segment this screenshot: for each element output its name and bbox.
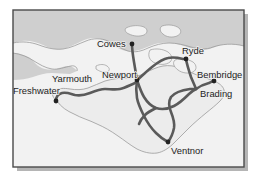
station-dot-cowes[interactable] xyxy=(130,42,135,47)
place-label-cowes[interactable]: Cowes xyxy=(97,38,126,49)
place-label-bembridge[interactable]: Bembridge xyxy=(197,69,242,80)
station-dot-ryde[interactable] xyxy=(184,57,189,62)
station-dot-freshwater[interactable] xyxy=(54,99,59,104)
station-dot-ventnor[interactable] xyxy=(166,140,171,145)
place-label-freshwater[interactable]: Freshwater xyxy=(13,85,60,96)
map-figure: CowesRydeNewportBembridgeBradingYarmouth… xyxy=(0,0,257,185)
map-canvas: CowesRydeNewportBembridgeBradingYarmouth… xyxy=(0,0,257,185)
place-label-yarmouth[interactable]: Yarmouth xyxy=(52,73,92,84)
place-label-newport[interactable]: Newport xyxy=(102,69,137,80)
place-label-brading[interactable]: Brading xyxy=(200,88,232,99)
place-label-ventnor[interactable]: Ventnor xyxy=(171,145,203,156)
place-label-ryde[interactable]: Ryde xyxy=(182,45,204,56)
